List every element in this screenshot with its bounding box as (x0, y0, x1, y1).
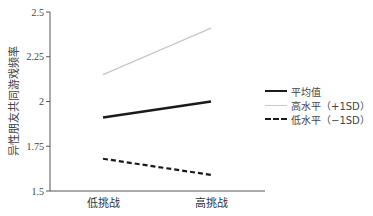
legend-item-high: 高水平（+1SD） (265, 98, 370, 112)
series-lines (103, 28, 211, 175)
legend-swatch-solid-thin (265, 105, 287, 106)
y-tick-label: 2.25 (27, 51, 45, 62)
series-line (103, 159, 211, 175)
series-line (103, 28, 211, 75)
y-tick-label: 2.5 (32, 7, 45, 18)
legend-item-mean: 平均值 (265, 84, 370, 98)
legend: 平均值 高水平（+1SD） 低水平（−1SD） (265, 84, 370, 126)
x-categories: 低挑战高挑战 (87, 196, 228, 210)
y-axis-label: 异性朋友共同游戏频率 (7, 46, 21, 156)
legend-swatch-dashed (265, 118, 287, 120)
x-category-label: 高挑战 (195, 196, 228, 210)
legend-item-low: 低水平（−1SD） (265, 112, 370, 126)
y-ticks: 1.51.7522.252.5 (27, 7, 51, 197)
legend-label: 平均值 (291, 84, 321, 99)
legend-label: 高水平（+1SD） (291, 98, 370, 113)
series-line (103, 102, 211, 118)
legend-swatch-solid-thick (265, 90, 287, 92)
y-tick-label: 1.75 (27, 141, 45, 152)
y-tick-label: 1.5 (32, 186, 45, 197)
y-tick-label: 2 (39, 96, 44, 107)
x-category-label: 低挑战 (87, 196, 120, 210)
legend-label: 低水平（−1SD） (291, 112, 370, 127)
